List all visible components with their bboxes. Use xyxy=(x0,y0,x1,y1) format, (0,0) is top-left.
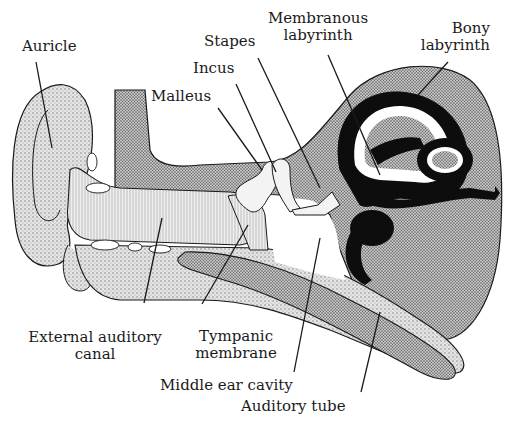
label-membranous-labyrinth-line2: labyrinth xyxy=(258,27,378,44)
incus-pointer xyxy=(236,84,276,172)
label-malleus: Malleus xyxy=(151,88,211,105)
label-external-auditory-canal-line2: canal xyxy=(15,346,175,363)
label-external-auditory-canal-line1: External auditory xyxy=(15,329,175,346)
label-bony-labyrinth: Bony labyrinth xyxy=(400,20,490,54)
label-tympanic-membrane: Tympanic membrane xyxy=(186,328,286,362)
label-auditory-tube: Auditory tube xyxy=(241,398,346,415)
label-membranous-labyrinth-line1: Membranous xyxy=(258,10,378,27)
malleus-pointer xyxy=(218,108,262,170)
label-membranous-labyrinth: Membranous labyrinth xyxy=(258,10,378,44)
label-tympanic-membrane-line1: Tympanic xyxy=(186,328,286,345)
label-bony-labyrinth-line1: Bony xyxy=(400,20,490,37)
label-auricle: Auricle xyxy=(22,38,77,55)
label-incus: Incus xyxy=(193,60,234,77)
label-stapes: Stapes xyxy=(204,33,255,50)
label-bony-labyrinth-line2: labyrinth xyxy=(400,37,490,54)
label-tympanic-membrane-line2: membrane xyxy=(186,345,286,362)
label-middle-ear-cavity: Middle ear cavity xyxy=(160,377,293,394)
ear-diagram: Auricle Stapes Incus Malleus Membranous … xyxy=(0,0,507,424)
label-external-auditory-canal: External auditory canal xyxy=(15,329,175,363)
